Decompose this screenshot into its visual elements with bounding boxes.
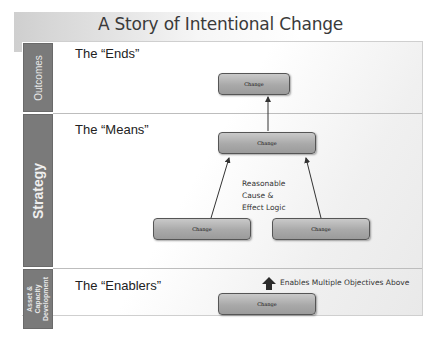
logic-line-1: Reasonable	[242, 178, 286, 190]
enables-objectives-label: Enables Multiple Objectives Above	[280, 278, 409, 287]
logic-line-2: Cause &	[242, 190, 286, 202]
cause-effect-logic-label: Reasonable Cause & Effect Logic	[242, 178, 286, 214]
up-arrow-icon	[262, 277, 276, 290]
change-box-strategy-right: Change	[272, 218, 370, 240]
change-box-strategy-left: Change	[153, 218, 251, 240]
change-box-strategy-main: Change	[218, 132, 316, 154]
logic-line-3: Effect Logic	[242, 202, 286, 214]
arrow-right-to-means	[306, 158, 321, 218]
change-box-outcome: Change	[218, 73, 290, 95]
arrow-left-to-means	[211, 158, 229, 218]
change-box-enabler: Change	[218, 293, 316, 315]
